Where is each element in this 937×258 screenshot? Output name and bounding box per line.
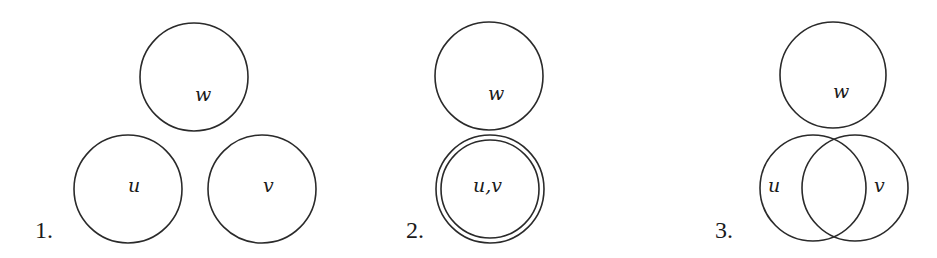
venn-diagram-figure: w u v 1. w u,v 2. w u v 3.: [0, 0, 937, 258]
panel-2: w u,v 2.: [406, 22, 544, 243]
panel-1: w u v 1.: [35, 23, 316, 243]
label-v: v: [874, 174, 885, 196]
label-w: w: [195, 83, 211, 105]
set-w-circle: [140, 23, 248, 131]
label-w: w: [488, 82, 504, 104]
label-u: u: [768, 174, 780, 196]
set-v-circle: [802, 135, 908, 241]
panel-number: 3.: [715, 217, 733, 243]
set-w-circle: [780, 22, 886, 128]
panel-3: w u v 3.: [715, 22, 908, 243]
label-uv: u,v: [473, 174, 502, 196]
label-u: u: [128, 174, 140, 196]
set-w-circle: [435, 22, 543, 130]
panel-number: 1.: [35, 217, 53, 243]
label-v: v: [263, 174, 274, 196]
label-w: w: [833, 80, 849, 102]
set-v-circle: [208, 135, 316, 243]
panel-number: 2.: [406, 217, 424, 243]
